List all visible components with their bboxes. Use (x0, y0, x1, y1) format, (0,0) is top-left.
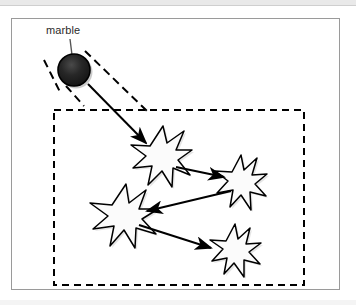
page-bottom-band (0, 300, 356, 305)
figure-canvas: marble (0, 0, 356, 305)
marble-label: marble (46, 24, 80, 37)
page-top-rule (0, 5, 356, 6)
figure-frame (11, 18, 340, 290)
